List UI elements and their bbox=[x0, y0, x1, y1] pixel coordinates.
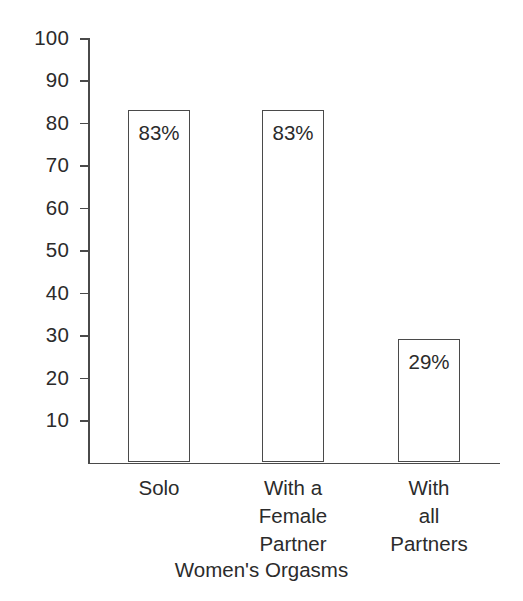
bar: 29% bbox=[398, 339, 460, 462]
y-tick-mark bbox=[80, 208, 89, 210]
y-tick-label: 60 bbox=[15, 198, 69, 219]
y-tick-label: 70 bbox=[15, 155, 69, 176]
y-tick-label: 90 bbox=[15, 70, 69, 91]
category-label: With a Female Partner bbox=[218, 474, 368, 558]
y-tick-mark bbox=[80, 378, 89, 380]
y-tick-mark bbox=[80, 335, 89, 337]
bar-value-label: 83% bbox=[129, 122, 189, 143]
y-tick-mark bbox=[80, 293, 89, 295]
y-tick-label: 40 bbox=[15, 283, 69, 304]
category-label: With all Partners bbox=[354, 474, 504, 558]
y-tick-label: 20 bbox=[15, 368, 69, 389]
y-tick-mark bbox=[80, 38, 89, 40]
bar-value-label: 83% bbox=[263, 122, 323, 143]
y-tick-label: 10 bbox=[15, 410, 69, 431]
y-tick-label: 100 bbox=[15, 28, 69, 49]
bar: 83% bbox=[262, 110, 324, 462]
y-tick-mark bbox=[80, 123, 89, 125]
y-tick-label: 80 bbox=[15, 113, 69, 134]
bar: 83% bbox=[128, 110, 190, 462]
y-tick-mark bbox=[80, 165, 89, 167]
y-tick-label: 30 bbox=[15, 325, 69, 346]
y-tick-mark bbox=[80, 420, 89, 422]
category-label: Solo bbox=[84, 474, 234, 502]
y-tick-mark bbox=[80, 250, 89, 252]
bar-value-label: 29% bbox=[399, 351, 459, 372]
x-axis-baseline bbox=[88, 463, 500, 465]
y-tick-label: 50 bbox=[15, 240, 69, 261]
y-tick-mark bbox=[80, 80, 89, 82]
bar-chart: 100908070605040302010 83%83%29% SoloWith… bbox=[0, 0, 523, 601]
x-axis-title: Women's Orgasms bbox=[0, 558, 523, 582]
